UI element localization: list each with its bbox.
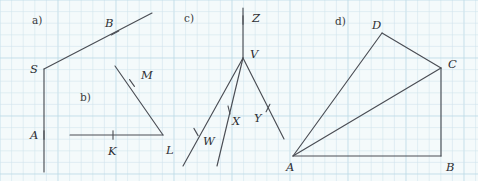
point-label-a-S: S: [30, 64, 38, 76]
point-label-a-B: B: [105, 18, 113, 30]
point-label-d-D: D: [372, 20, 381, 32]
ray-V-to-W: [183, 58, 243, 166]
point-label-c-W: W: [203, 136, 215, 148]
point-label-a-A: A: [30, 130, 38, 142]
point-label-b-K: K: [108, 146, 117, 158]
figure-caption-c: c): [184, 13, 194, 24]
segment-A-to-C: [293, 68, 441, 156]
figure-ink-layer: [0, 0, 478, 181]
point-label-c-X: X: [232, 116, 240, 128]
point-label-d-C: C: [448, 59, 457, 71]
tick-M: [130, 80, 135, 87]
figure-caption-a: a): [32, 15, 42, 26]
point-label-b-M: M: [141, 70, 153, 82]
ray-V-to-Y: [243, 58, 284, 139]
segment-D-to-C: [382, 33, 441, 68]
figure-a: [44, 13, 152, 172]
tick-W: [194, 128, 198, 135]
figure-caption-d: d): [335, 16, 346, 27]
point-label-c-V: V: [250, 49, 258, 61]
geometry-figure-sheet: a)SBAb)MKLc)ZVWXYd)DCAB: [0, 0, 478, 181]
point-label-c-Y: Y: [254, 113, 262, 125]
point-label-c-Z: Z: [252, 13, 260, 25]
figure-caption-b: b): [80, 92, 91, 103]
ray-S-up-right: [44, 13, 152, 69]
figure-c: [183, 8, 284, 166]
figure-d: [293, 33, 441, 156]
point-label-d-A: A: [286, 162, 294, 174]
segment-M-to-L: [115, 66, 163, 135]
point-label-b-L: L: [166, 145, 174, 157]
tick-X: [228, 106, 230, 114]
point-label-d-B: B: [446, 162, 454, 174]
segment-A-to-D: [293, 33, 382, 156]
